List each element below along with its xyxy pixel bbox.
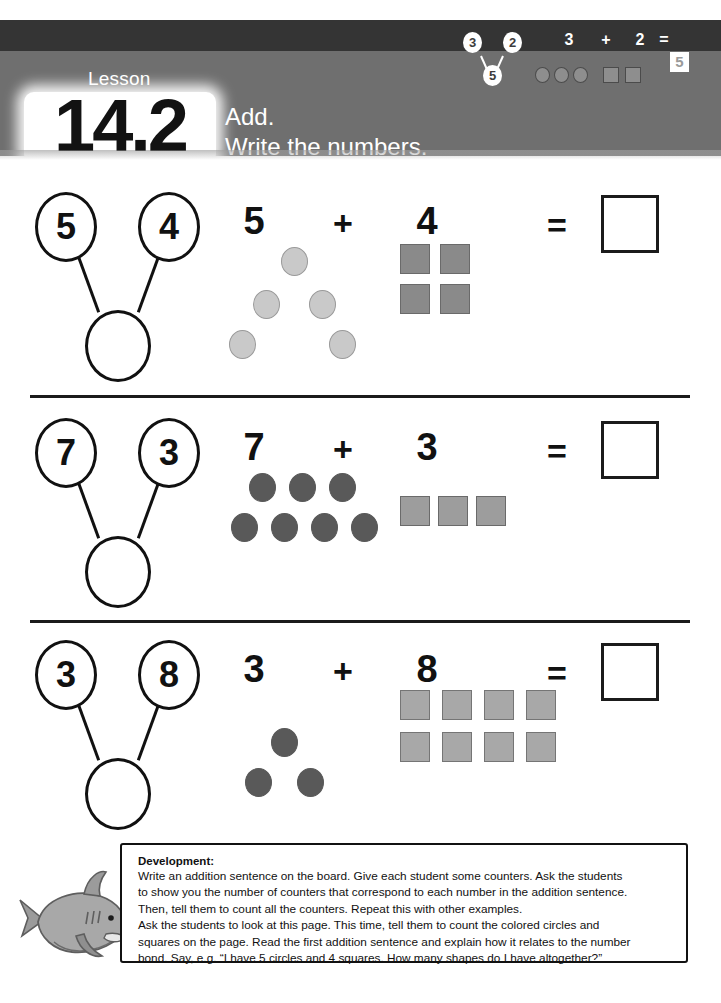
bond-part-left: 7 <box>35 418 97 488</box>
counter-circle <box>229 330 256 359</box>
bond-total-blank[interactable] <box>85 536 151 608</box>
counter-circle <box>309 290 336 319</box>
counter-square <box>400 496 430 526</box>
header-addend-2: 2 <box>629 31 651 49</box>
shark-icon <box>14 862 136 974</box>
bond-part-left: 3 <box>35 640 97 710</box>
header-equals-sign: = <box>653 31 675 49</box>
equals-sign: = <box>540 654 574 693</box>
counter-circle <box>245 768 272 797</box>
problem-row: 737+3= <box>0 418 721 618</box>
header-counter-square <box>625 67 641 83</box>
counter-square <box>476 496 506 526</box>
counter-square <box>400 244 430 274</box>
counter-square <box>526 732 556 762</box>
number-bond: 54 <box>32 192 207 382</box>
counter-circle <box>289 473 316 502</box>
lesson-header: Lesson 14.2 Add. Write the numbers. 3 2 … <box>0 20 721 156</box>
bond-total-blank[interactable] <box>85 758 151 830</box>
row-divider <box>30 395 690 398</box>
counter-circle <box>249 473 276 502</box>
header-answer: 5 <box>670 52 689 72</box>
worksheet-page: Lesson 14.2 Add. Write the numbers. 3 2 … <box>0 0 721 1003</box>
counter-circle <box>231 513 258 542</box>
plus-sign: + <box>326 652 360 691</box>
counter-square <box>400 284 430 314</box>
counter-square <box>484 732 514 762</box>
addend-1: 7 <box>231 426 277 469</box>
bond-line-left <box>76 253 100 312</box>
plus-sign: + <box>326 204 360 243</box>
addend-1: 3 <box>231 648 277 691</box>
addend-2: 8 <box>404 648 450 691</box>
development-line: Ask the students to look at this page. T… <box>138 917 672 933</box>
counter-circle <box>271 728 298 757</box>
answer-box[interactable] <box>601 421 659 479</box>
counter-circle <box>329 330 356 359</box>
row-divider <box>30 620 690 623</box>
counter-circle <box>281 247 308 276</box>
bond-line-right <box>137 701 161 760</box>
counter-square <box>526 690 556 720</box>
addend-1: 5 <box>231 200 277 243</box>
counter-square <box>442 690 472 720</box>
bond-total-blank[interactable] <box>85 310 151 382</box>
header-counter-circle <box>554 67 569 83</box>
development-note: Development: Write an addition sentence … <box>120 843 688 963</box>
counter-circle <box>253 290 280 319</box>
number-bond: 73 <box>32 418 207 608</box>
answer-box[interactable] <box>601 643 659 701</box>
answer-box[interactable] <box>601 195 659 253</box>
development-text: Write an addition sentence on the board.… <box>138 868 672 966</box>
problem-row: 545+4= <box>0 192 721 392</box>
header-counter-square <box>603 67 619 83</box>
development-title: Development: <box>138 855 672 867</box>
counter-circle <box>271 513 298 542</box>
counter-square <box>440 284 470 314</box>
counter-circle <box>311 513 338 542</box>
development-line: to show you the number of counters that … <box>138 884 672 900</box>
counter-square <box>438 496 468 526</box>
counter-circle <box>329 473 356 502</box>
header-bond-left: 3 <box>463 32 482 53</box>
instruction-line-1: Add. <box>225 102 427 132</box>
bond-line-right <box>137 253 161 312</box>
counter-circle <box>297 768 324 797</box>
problem-row: 383+8= <box>0 640 721 840</box>
development-line: bond. Say, e.g. “I have 5 circles and 4 … <box>138 950 672 966</box>
bond-part-left: 5 <box>35 192 97 262</box>
number-bond: 38 <box>32 640 207 830</box>
header-bond-sum: 5 <box>483 65 502 86</box>
development-line: Then, tell them to count all the counter… <box>138 901 672 917</box>
bond-line-right <box>137 479 161 538</box>
counter-square <box>440 244 470 274</box>
header-bond-right: 2 <box>503 32 522 53</box>
counter-square <box>484 690 514 720</box>
addend-2: 3 <box>404 426 450 469</box>
header-shadow <box>0 150 721 160</box>
counter-square <box>400 690 430 720</box>
equals-sign: = <box>540 432 574 471</box>
counter-square <box>442 732 472 762</box>
bond-part-right: 8 <box>138 640 200 710</box>
bond-line-left <box>76 701 100 760</box>
header-counter-circle <box>573 67 588 83</box>
bond-part-right: 4 <box>138 192 200 262</box>
plus-sign: + <box>326 430 360 469</box>
header-counter-circle <box>535 67 550 83</box>
counter-square <box>400 732 430 762</box>
bond-part-right: 3 <box>138 418 200 488</box>
bond-line-left <box>76 479 100 538</box>
header-plus-sign: + <box>595 31 617 49</box>
development-line: squares on the page. Read the first addi… <box>138 934 672 950</box>
addend-2: 4 <box>404 200 450 243</box>
counter-circle <box>351 513 378 542</box>
equals-sign: = <box>540 206 574 245</box>
development-line: Write an addition sentence on the board.… <box>138 868 672 884</box>
header-addend-1: 3 <box>558 31 580 49</box>
